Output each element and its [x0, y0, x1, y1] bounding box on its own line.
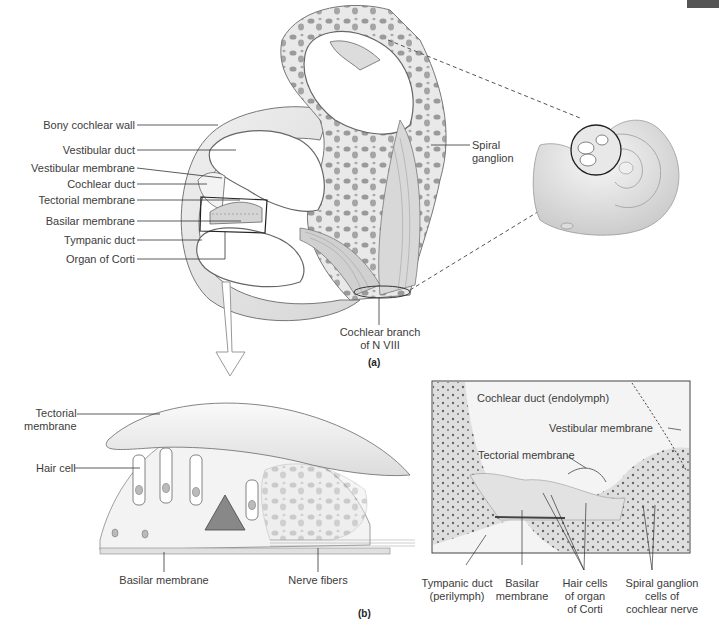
organ-of-corti-drawing [100, 403, 415, 554]
label-vestibular-duct: Vestibular duct [0, 144, 135, 157]
label-cochlear-branch: Cochlear branch of N VIII [330, 326, 430, 352]
label-cochlear-duct: Cochlear duct [0, 178, 135, 191]
label-micro-vestibular-membrane: Vestibular membrane [549, 422, 653, 435]
label-cochlear-duct-endolymph: Cochlear duct (endolymph) [477, 392, 609, 405]
label-tectorial-membrane: Tectorial membrane [0, 194, 135, 207]
label-bony-cochlear-wall: Bony cochlear wall [0, 119, 135, 132]
cochlea-shell [533, 120, 679, 235]
label-vestibular-membrane: Vestibular membrane [0, 162, 135, 175]
label-tympanic-duct: Tympanic duct [0, 234, 135, 247]
label-organ-of-corti: Organ of Corti [0, 253, 135, 266]
label-basilar-membrane: Basilar membrane [0, 215, 135, 228]
label-micro-tectorial-membrane: Tectorial membrane [478, 449, 575, 462]
label-hair-cell: Hair cell [36, 462, 76, 475]
panel-a-tag: (a) [368, 357, 380, 368]
label-hair-cells-organ-of-corti: Hair cells of organ of Corti [555, 577, 615, 616]
label-tympanic-duct-perilymph: Tympanic duct (perilymph) [412, 577, 502, 603]
panel-b-tag: (b) [358, 608, 371, 619]
cochlea-cross-section [181, 5, 446, 376]
cochlea-illustration [0, 0, 719, 640]
label-spiral-ganglion-cells: Spiral ganglion cells of cochlear nerve [616, 577, 708, 616]
label-micro-basilar-membrane: Basilar membrane [490, 577, 554, 603]
label-spiral-ganglion: Spiral ganglion [472, 139, 514, 165]
label-b-tectorial-membrane: Tectorial membrane [24, 407, 77, 433]
label-nerve-fibers: Nerve fibers [278, 574, 358, 587]
label-b-basilar-membrane: Basilar membrane [114, 574, 214, 587]
